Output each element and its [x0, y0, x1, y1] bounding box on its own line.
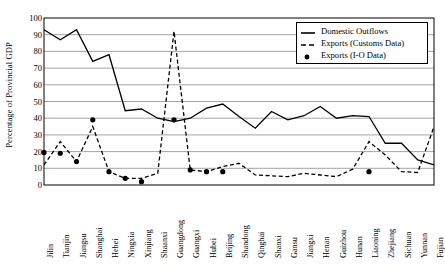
series-exports-io — [41, 117, 371, 184]
x-axis-tick-label: Hubei — [210, 238, 218, 258]
data-point-marker — [74, 159, 79, 164]
data-point-marker — [366, 169, 371, 174]
x-axis-tick-label: Shanghai — [96, 228, 104, 258]
x-axis-tick-label: Shandong — [242, 225, 250, 258]
x-axis-tick-label: Hunan — [356, 236, 364, 258]
data-point-marker — [58, 151, 63, 156]
legend-item: Exports (Customs Data) — [298, 37, 425, 49]
x-axis-tick-label: Hebei — [112, 238, 120, 258]
x-axis-tick-label: Liaoning — [372, 228, 380, 258]
x-axis-tick-label: Sichuan — [405, 232, 413, 258]
legend: Domestic Outflows Exports (Customs Data)… — [296, 22, 428, 64]
x-axis-tick-label: Jilin — [47, 244, 55, 258]
legend-item: Domestic Outflows — [298, 25, 425, 37]
x-axis-tick-label: Shanxi — [275, 235, 283, 258]
legend-label: Exports (Customs Data) — [320, 38, 404, 48]
dashed-line-key — [298, 37, 320, 49]
data-point-marker — [171, 117, 176, 122]
x-axis-tick-label: Gansu — [291, 237, 299, 258]
x-axis-tick-label: Guangdong — [177, 220, 185, 258]
x-axis-tick-label: Fujian — [437, 237, 445, 258]
data-point-marker — [204, 169, 209, 174]
x-axis-tick-label: Henan — [323, 237, 331, 258]
legend-label: Exports (I-O Data) — [320, 50, 386, 60]
x-axis-tick-label: Beijing — [226, 234, 234, 258]
x-axis-tick-label: Qinghai — [258, 232, 266, 258]
data-point-marker — [90, 117, 95, 122]
data-point-marker — [188, 167, 193, 172]
x-axis-tick-label: Jiangsu — [80, 233, 88, 258]
dot-marker-key — [298, 49, 320, 61]
data-point-marker — [41, 150, 46, 155]
x-axis-tick-label: Guangxi — [193, 230, 201, 258]
x-axis-tick-label: Guizhou — [340, 230, 348, 258]
data-point-marker — [220, 169, 225, 174]
x-axis-tick-label: Xinjiang — [145, 229, 153, 258]
solid-line-key — [298, 25, 320, 37]
data-point-marker — [139, 179, 144, 184]
x-axis-tick-label: Yunnan — [421, 233, 429, 258]
legend-item: Exports (I-O Data) — [298, 49, 425, 61]
x-axis-tick-label: Ningxia — [128, 232, 136, 258]
legend-label: Domestic Outflows — [320, 26, 388, 36]
data-point-marker — [123, 176, 128, 181]
data-point-marker — [106, 169, 111, 174]
x-axis-tick-label: Tianjin — [63, 235, 71, 258]
x-axis-tick-label: Zhejiang — [388, 229, 396, 258]
x-axis-tick-label: Shaanxi — [161, 232, 169, 258]
x-axis-tick-label: Jiangxi — [307, 234, 315, 258]
